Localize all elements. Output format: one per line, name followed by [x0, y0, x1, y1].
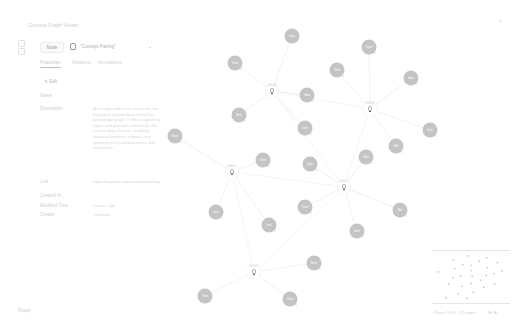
hub-lightbulb-icon[interactable]: Hub B — [363, 101, 377, 116]
concept-node[interactable]: Item — [198, 289, 213, 304]
svg-text:Hub B: Hub B — [366, 101, 374, 105]
svg-text:Link: Link — [266, 223, 272, 227]
svg-text:Link: Link — [302, 126, 308, 130]
hub-lightbulb-icon[interactable]: Hub A — [265, 83, 279, 98]
graph-edge — [369, 47, 370, 109]
svg-text:Term: Term — [287, 297, 294, 301]
minimap[interactable] — [432, 250, 510, 304]
svg-text:Item: Item — [427, 128, 433, 132]
concept-node[interactable]: Item — [423, 123, 438, 138]
svg-text:Note: Note — [172, 134, 179, 138]
svg-text:Ref: Ref — [394, 144, 399, 148]
concept-node[interactable]: Idea — [359, 150, 374, 165]
minimap-footer: Zoom 100% · 22 nodes — [434, 310, 476, 315]
graph-edge — [254, 263, 314, 272]
concept-node[interactable]: Term — [330, 63, 345, 78]
concept-node[interactable]: Term — [283, 292, 298, 307]
hub-lightbulb-icon[interactable]: Hub C — [225, 164, 239, 179]
concept-node[interactable]: Note — [168, 129, 183, 144]
zoom-controls-icon[interactable]: ⊖ ⊕ — [488, 309, 497, 315]
hub-lightbulb-icon[interactable]: Hub D — [337, 179, 351, 194]
svg-text:Hub D: Hub D — [340, 179, 349, 183]
concept-node[interactable]: Item — [350, 224, 365, 239]
graph-edge — [370, 109, 430, 130]
svg-text:Item: Item — [354, 229, 360, 233]
svg-text:Hub E: Hub E — [250, 264, 258, 268]
svg-text:Item: Item — [213, 210, 219, 214]
svg-text:Term: Term — [260, 158, 267, 162]
concept-node[interactable]: Term — [256, 153, 271, 168]
svg-text:Topic: Topic — [365, 45, 373, 49]
concept-node[interactable]: Item — [209, 205, 224, 220]
graph-edge — [175, 136, 232, 172]
svg-text:Term: Term — [232, 61, 239, 65]
graph-edges — [175, 36, 430, 299]
concept-node[interactable]: Topic — [303, 157, 318, 172]
concept-node[interactable]: Item — [232, 108, 247, 123]
svg-text:Hub C: Hub C — [228, 164, 237, 168]
concept-node[interactable]: Idea — [300, 88, 315, 103]
svg-text:Term: Term — [302, 205, 309, 209]
concept-node[interactable]: Ref — [393, 203, 408, 218]
graph-edge — [370, 78, 411, 109]
concept-node[interactable]: Topic — [285, 29, 300, 44]
graph-edge — [205, 272, 254, 296]
svg-text:Hub A: Hub A — [268, 83, 276, 87]
concept-node[interactable]: Note — [307, 256, 322, 271]
svg-text:Topic: Topic — [288, 34, 296, 38]
svg-text:Topic: Topic — [306, 162, 314, 166]
concept-node[interactable]: Link — [298, 121, 313, 136]
svg-text:Idea: Idea — [304, 93, 310, 97]
concept-node[interactable]: Ref — [389, 139, 404, 154]
concept-node[interactable]: Topic — [362, 40, 377, 55]
svg-text:Idea: Idea — [408, 76, 414, 80]
svg-text:Item: Item — [202, 294, 208, 298]
hub-lightbulb-icon[interactable]: Hub E — [247, 264, 261, 279]
svg-text:Ref: Ref — [398, 208, 403, 212]
concept-node[interactable]: Term — [298, 200, 313, 215]
concept-node[interactable]: Term — [228, 56, 243, 71]
minimap-canvas[interactable] — [432, 251, 510, 303]
graph-edge — [344, 187, 400, 210]
svg-text:Note: Note — [311, 261, 318, 265]
concept-node[interactable]: Link — [262, 218, 277, 233]
svg-text:Idea: Idea — [363, 155, 369, 159]
svg-text:Term: Term — [334, 68, 341, 72]
concept-node[interactable]: Idea — [404, 71, 419, 86]
svg-text:Item: Item — [236, 113, 242, 117]
